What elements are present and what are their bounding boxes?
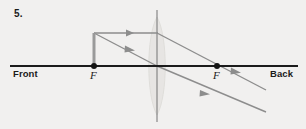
ray-parallel-refracted <box>157 33 266 90</box>
ray-parallel-refracted-arrowhead <box>231 68 242 75</box>
front-side-label: Front <box>13 69 38 79</box>
question-number-label: 5. <box>14 9 23 19</box>
ray-center-incident-arrowhead <box>125 46 136 53</box>
focal-point-right-label: F <box>213 70 220 81</box>
ray-center-refracted <box>157 66 266 112</box>
ray-diagram-figure: 5. Front Back F F <box>0 0 306 129</box>
ray-center-refracted-arrowhead <box>200 90 211 97</box>
ray-parallel-incident-arrowhead <box>126 30 134 37</box>
back-side-label: Back <box>270 69 293 79</box>
optics-diagram-canvas <box>0 0 306 129</box>
focal-point-left-label: F <box>90 70 97 81</box>
